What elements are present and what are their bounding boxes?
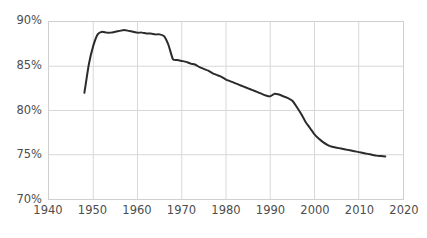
x-axis-tick-labels: 194019501960197019801990200020102020	[0, 0, 427, 238]
x-tick-label: 2000	[300, 205, 329, 217]
x-tick-label: 2020	[389, 205, 418, 217]
x-tick-label: 1950	[78, 205, 107, 217]
x-tick-label: 1970	[167, 205, 196, 217]
chart-container: 70%75%80%85%90% 194019501960197019801990…	[0, 0, 427, 238]
x-tick-label: 1940	[33, 205, 62, 217]
x-tick-label: 1960	[122, 205, 151, 217]
x-tick-label: 1980	[211, 205, 240, 217]
x-tick-label: 2010	[345, 205, 374, 217]
x-tick-label: 1990	[256, 205, 285, 217]
